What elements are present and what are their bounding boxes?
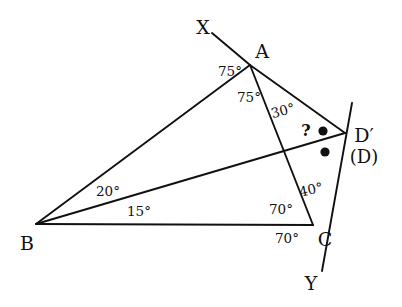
segment-BC (36, 224, 313, 225)
angle-BAC: 75° (237, 91, 261, 105)
segment-BD (36, 133, 345, 224)
label-D-prime: D′ (354, 126, 374, 145)
segment-XA (212, 33, 250, 65)
angle-ACB: 70° (269, 203, 293, 217)
equal-angle-dot-lower (320, 147, 329, 156)
label-D-paren: (D) (350, 148, 378, 166)
segment-AB (36, 65, 250, 224)
label-Y: Y (305, 274, 318, 293)
angle-XAB: 75° (218, 65, 242, 79)
figure-lines-svg (0, 0, 402, 307)
unknown-angle-question-mark: ? (301, 123, 310, 139)
equal-angle-dot-upper (318, 126, 327, 135)
angle-ABD: 20° (96, 185, 120, 199)
label-A: A (255, 42, 269, 61)
angle-DBC: 15° (127, 205, 151, 219)
label-B: B (20, 234, 34, 253)
label-C: C (318, 230, 333, 249)
geometry-diagram-canvas: X A B C D′ (D) Y 75° 75° 30° 40° 70° 70°… (0, 0, 402, 307)
label-X: X (196, 18, 210, 37)
angle-BCY: 70° (275, 232, 299, 246)
